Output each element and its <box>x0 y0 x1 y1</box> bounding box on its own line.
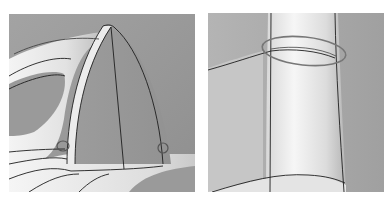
right-render-image <box>208 13 384 192</box>
left-render-image <box>9 14 195 192</box>
left-render-panel <box>9 14 195 192</box>
right-render-panel <box>208 13 384 192</box>
cylinder-surface <box>266 13 346 192</box>
adjacent-surface <box>208 51 263 192</box>
